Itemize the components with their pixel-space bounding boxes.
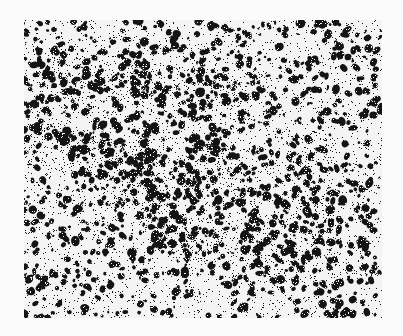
- image-frame: [0, 0, 403, 336]
- micrograph-texture: [24, 20, 382, 318]
